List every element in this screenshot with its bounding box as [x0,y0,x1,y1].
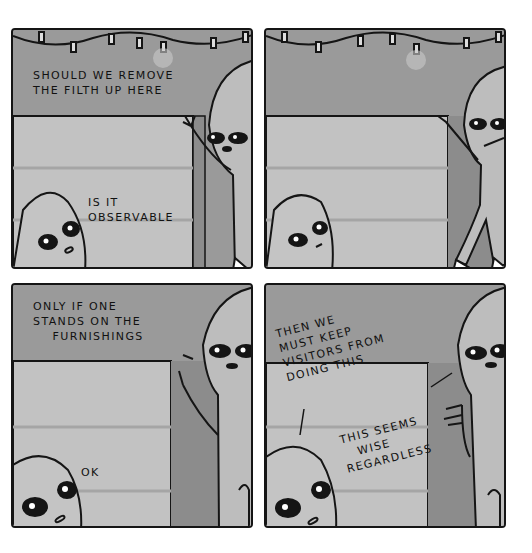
speech-text-tall-alien: ONLY IF ONE STANDS ON THE FURNISHINGS [33,299,144,344]
panel-1-illustration [13,30,253,269]
comic-panel-3: ONLY IF ONE STANDS ON THE FURNISHINGS OK [11,283,253,528]
comic-panel-1: SHOULD WE REMOVE THE FILTH UP HERE IS IT… [11,28,253,269]
comic-panel-4: THEN WE MUST KEEP VISITORS FROM DOING TH… [264,283,506,528]
comic-panel-2 [264,28,506,269]
speech-text-tall-alien: SHOULD WE REMOVE THE FILTH UP HERE [33,68,174,98]
speech-text-short-alien: OK [81,465,100,480]
panel-2-illustration [266,30,506,269]
speech-text-short-alien: IS IT OBSERVABLE [88,195,174,225]
